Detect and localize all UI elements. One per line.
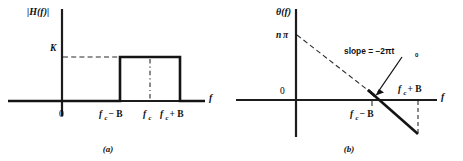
panel-a-xtick-fc: f c <box>143 109 152 121</box>
panel-b-phase-extrapolation-dashed <box>297 35 369 91</box>
panel-b-xtick1-base: f <box>350 109 354 119</box>
panel-a-y-axis-label: |H(f)| <box>27 6 49 18</box>
panel-b-slope-annotation: slope = −2πt 0 <box>344 46 419 58</box>
panel-b-slope-arrow-head2 <box>376 89 385 96</box>
panel-a-xtick3-sub: c <box>166 114 169 121</box>
panel-a-xtick3-base: f <box>160 109 164 119</box>
panel-b-slope-subscript: 0 <box>415 51 419 58</box>
panel-a-magnitude-curve <box>8 57 205 101</box>
panel-b-level-n: n <box>276 30 281 40</box>
panel-a-level-label-k: K <box>49 43 57 53</box>
panel-b-xtick1-sub: c <box>356 114 359 121</box>
panel-b-xtick1-tail: − B <box>360 109 375 119</box>
figure-container: |H(f)| K 0 f c − B f c f c + B f (a) <box>0 0 463 161</box>
panel-b-phase-curve <box>368 90 418 134</box>
panel-a-xtick1-sub: c <box>105 114 108 121</box>
panel-a-xtick1-tail: − B <box>109 109 124 119</box>
panel-b-origin-label: 0 <box>280 86 285 96</box>
panel-b-level-label-npi: n π <box>276 30 289 40</box>
panel-a-xtick-fc-plus-b: f c + B <box>160 109 184 121</box>
panel-b-caption: (b) <box>344 144 355 154</box>
panel-a-xtick2-sub: c <box>149 114 152 121</box>
panel-b-phase-curve-cap <box>368 90 375 96</box>
panel-b-slope-text: slope = −2πt <box>344 46 394 56</box>
panel-a-xtick3-tail: + B <box>170 109 185 119</box>
panel-a-caption: (a) <box>103 144 114 154</box>
panel-b-level-pi: π <box>283 30 289 40</box>
panel-a-xtick2-base: f <box>143 109 147 119</box>
panel-b-xtick2-tail: + B <box>408 84 423 94</box>
panel-b-xtick-fc-minus-b: f c − B <box>350 109 374 121</box>
panel-a-x-axis-label: f <box>209 92 214 103</box>
panel-b-xtick-fc-plus-b: f c + B <box>398 84 422 96</box>
panel-a-xtick1-base: f <box>99 109 103 119</box>
panel-b-phase-response: θ(f) n π 0 f c − B f c + B slope = −2πt … <box>232 0 463 161</box>
panel-b-x-axis-label: f <box>441 91 446 102</box>
panel-b-y-axis-label: θ(f) <box>276 6 291 18</box>
panel-a-origin-label: 0 <box>59 109 64 119</box>
panel-b-xtick2-base: f <box>398 84 402 94</box>
panel-a-xtick-fc-minus-b: f c − B <box>99 109 123 121</box>
panel-b-xtick2-sub: c <box>404 89 407 96</box>
panel-a-magnitude-response: |H(f)| K 0 f c − B f c f c + B f (a) <box>0 0 232 161</box>
